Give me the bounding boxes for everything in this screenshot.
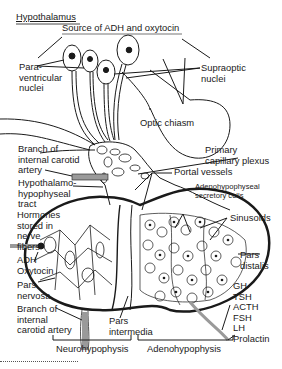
- label-pars-nervosa: Parsnervosa: [17, 280, 50, 301]
- label-pars-distalis: Parsdistalis: [240, 250, 269, 271]
- dotted-divider: [0, 361, 78, 362]
- label-hypothalamo-tract: Hypothalamo-hypophysealtract: [18, 178, 76, 210]
- label-optic-chiasm: Optic chiasm: [140, 118, 194, 129]
- label-supraoptic-nuclei: Supraopticnuclei: [201, 63, 246, 84]
- label-paraventricular-nuclei: Para-ventricularnuclei: [19, 62, 62, 94]
- label-hormone-list: GHTSHACTH FSHLHProlactin: [233, 281, 269, 344]
- label-neurohypophysis: Neurohypophysis: [56, 344, 128, 355]
- label-portal-vessels: Portal vessels: [174, 167, 232, 178]
- label-adenohypophysis: Adenohypophysis: [147, 344, 221, 355]
- label-primary-capillary-plexus: Primarycapillary plexus: [205, 145, 269, 166]
- label-adh-oxytocin: ADHOxytocin: [17, 255, 53, 276]
- label-secretory-cells: Adenohypophysealsecretory cells: [195, 183, 260, 200]
- title-hypothalamus: Hypothalamus: [16, 12, 76, 23]
- label-hormones-stored: Hormonesstored innervefibers: [17, 210, 60, 252]
- label-branch-carotid-bottom: Branch ofinternalcarotid artery: [17, 304, 72, 336]
- label-source: Source of ADH and oxytocin: [62, 23, 179, 34]
- label-branch-carotid-top: Branch ofinternal carotidartery: [18, 144, 80, 176]
- label-pars-intermedia: Parsintermedia: [109, 316, 153, 337]
- label-sinusoids: Sinusoids: [230, 213, 271, 224]
